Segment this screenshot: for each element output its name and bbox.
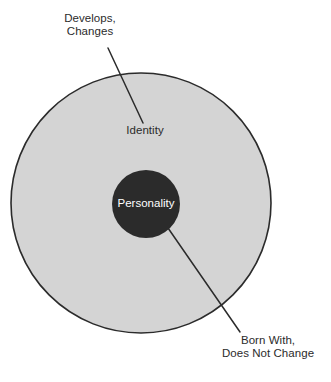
inner-circle-label-text: Personality [101, 197, 191, 210]
annotation-develops-changes: Develops, Changes [0, 12, 180, 37]
inner-circle-label: Personality [101, 197, 191, 210]
annotation-develops-changes-line2: Changes [0, 25, 180, 38]
annotation-born-with: Born With, Does Not Change [205, 334, 331, 359]
annotation-born-with-line1: Born With, [205, 334, 331, 347]
annotation-develops-changes-line1: Develops, [0, 12, 180, 25]
outer-circle-label-text: Identity [62, 124, 228, 137]
annotation-born-with-line2: Does Not Change [205, 347, 331, 360]
outer-circle-label: Identity [62, 124, 228, 137]
diagram-canvas: Develops, Changes Identity Personality B… [0, 0, 331, 382]
diagram-shapes [0, 0, 331, 382]
